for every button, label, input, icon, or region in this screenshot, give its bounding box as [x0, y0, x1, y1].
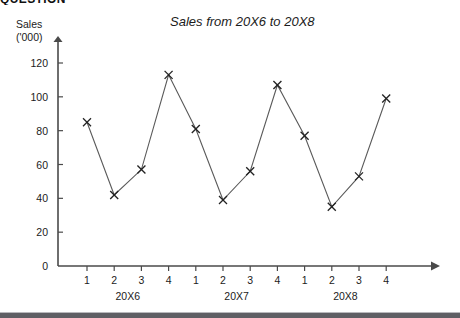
chart-page: QUESTION Sales from 20X6 to 20X8 Sales (…: [0, 0, 460, 318]
y-axis: [54, 36, 64, 266]
data-point-marker: [165, 71, 173, 79]
data-point-marker: [137, 166, 145, 174]
data-point-marker: [110, 191, 118, 199]
y-tick-label: 20: [36, 226, 48, 238]
x-tick-label: 1: [193, 274, 199, 286]
x-tick-label: 1: [302, 274, 308, 286]
y-tick-label: 0: [42, 260, 48, 272]
series-polyline: [87, 75, 386, 207]
x-tick-label: 4: [274, 274, 280, 286]
data-point-marker: [246, 167, 254, 175]
x-tick-label: 2: [329, 274, 335, 286]
data-point-marker: [219, 196, 227, 204]
x-tick-label: 4: [383, 274, 389, 286]
data-point-marker: [355, 172, 363, 180]
x-axis: [58, 262, 440, 272]
x-tick-label: 2: [111, 274, 117, 286]
x-tick-label: 1: [84, 274, 90, 286]
x-axis-group-label: 20X8: [333, 290, 358, 302]
y-tick-label: 40: [36, 192, 48, 204]
data-point-marker: [382, 95, 390, 103]
data-point-marker: [192, 125, 200, 133]
x-tick-label: 3: [138, 274, 144, 286]
y-tick-label: 100: [30, 91, 48, 103]
sales-series: [83, 71, 390, 211]
y-tick-label: 60: [36, 159, 48, 171]
data-point-marker: [301, 132, 309, 140]
x-axis-group-label: 20X7: [224, 290, 249, 302]
data-point-marker: [83, 118, 91, 126]
x-tick-label: 2: [220, 274, 226, 286]
x-tick-label: 4: [166, 274, 172, 286]
y-axis-arrow-icon: [54, 36, 63, 42]
data-point-marker: [273, 81, 281, 89]
bottom-rule: [0, 313, 460, 318]
x-tick-label: 3: [356, 274, 362, 286]
line-chart-plot: 02040608010012012341234123420X620X720X8: [0, 0, 460, 318]
x-axis-group-label: 20X6: [116, 290, 141, 302]
y-tick-label: 80: [36, 125, 48, 137]
x-tick-label: 3: [247, 274, 253, 286]
y-tick-label: 120: [30, 57, 48, 69]
x-axis-arrow-icon: [431, 262, 440, 271]
data-point-marker: [328, 203, 336, 211]
